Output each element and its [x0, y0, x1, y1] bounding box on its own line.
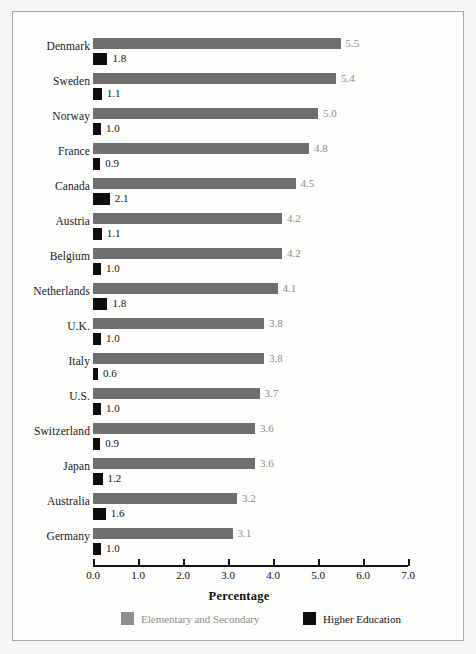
bar-elementary-and-secondary	[93, 143, 309, 154]
bar-value-elementary-and-secondary: 5.4	[341, 72, 355, 84]
x-axis-tick	[318, 559, 320, 566]
bar-value-higher-education: 0.9	[105, 157, 119, 169]
chart-row: U.K.3.81.0	[13, 316, 465, 351]
x-axis-tick	[408, 559, 410, 566]
bar-value-higher-education: 1.0	[106, 542, 120, 554]
bar-value-elementary-and-secondary: 4.1	[283, 282, 297, 294]
legend-label-higher-education: Higher Education	[323, 613, 401, 625]
bar-value-higher-education: 0.9	[105, 437, 119, 449]
bar-higher-education	[93, 438, 100, 450]
category-label: Germany	[0, 530, 90, 542]
bar-elementary-and-secondary	[93, 528, 233, 539]
category-label: Norway	[0, 110, 90, 122]
x-axis-tick-label: 6.0	[356, 569, 370, 581]
bar-elementary-and-secondary	[93, 213, 282, 224]
bar-value-higher-education: 1.8	[112, 52, 126, 64]
bar-higher-education	[93, 473, 103, 485]
bar-higher-education	[93, 53, 107, 65]
x-axis-tick-label: 4.0	[266, 569, 280, 581]
legend-swatch-black-icon	[303, 612, 316, 625]
x-axis-tick	[363, 559, 365, 566]
chart-row: Norway5.01.0	[13, 106, 465, 141]
chart-row: Italy3.80.6	[13, 351, 465, 386]
x-axis-title: Percentage	[13, 589, 465, 604]
bar-elementary-and-secondary	[93, 493, 237, 504]
x-axis-tick-label: 7.0	[401, 569, 415, 581]
bar-value-higher-education: 1.2	[108, 472, 122, 484]
chart-frame: Germany3.11.0Australia3.21.6Japan3.61.2S…	[12, 11, 464, 641]
bar-value-elementary-and-secondary: 3.8	[269, 317, 283, 329]
x-axis-tick	[273, 559, 275, 566]
bar-value-elementary-and-secondary: 5.5	[346, 37, 360, 49]
bar-higher-education	[93, 158, 100, 170]
legend-item-higher-education: Higher Education	[303, 612, 401, 625]
x-axis-tick-label: 3.0	[221, 569, 235, 581]
bar-elementary-and-secondary	[93, 38, 341, 49]
category-label: Netherlands	[0, 285, 90, 297]
bar-value-elementary-and-secondary: 4.8	[314, 142, 328, 154]
bar-value-elementary-and-secondary: 4.5	[301, 177, 315, 189]
bar-value-elementary-and-secondary: 3.6	[260, 457, 274, 469]
bar-value-elementary-and-secondary: 5.0	[323, 107, 337, 119]
category-label: Sweden	[0, 75, 90, 87]
bar-higher-education	[93, 333, 101, 345]
bar-elementary-and-secondary	[93, 318, 264, 329]
bar-elementary-and-secondary	[93, 353, 264, 364]
chart-row: Austria4.21.1	[13, 211, 465, 246]
bar-higher-education	[93, 263, 101, 275]
bar-higher-education	[93, 88, 102, 100]
category-label: Japan	[0, 460, 90, 472]
bar-higher-education	[93, 228, 102, 240]
bar-higher-education	[93, 508, 106, 520]
x-axis-line	[93, 565, 408, 567]
bar-value-higher-education: 0.6	[103, 367, 117, 379]
chart-row: Belgium4.21.0	[13, 246, 465, 281]
bar-value-elementary-and-secondary: 3.2	[242, 492, 256, 504]
bar-elementary-and-secondary	[93, 388, 260, 399]
bar-higher-education	[93, 368, 98, 380]
bar-value-elementary-and-secondary: 4.2	[287, 247, 301, 259]
x-axis-tick-label: 2.0	[176, 569, 190, 581]
category-label: Italy	[0, 355, 90, 367]
x-axis-tick	[93, 559, 95, 566]
chart-row: Japan3.61.2	[13, 456, 465, 491]
bar-elementary-and-secondary	[93, 458, 255, 469]
bar-elementary-and-secondary	[93, 108, 318, 119]
category-label: Switzerland	[0, 425, 90, 437]
bar-value-elementary-and-secondary: 3.8	[269, 352, 283, 364]
bar-elementary-and-secondary	[93, 283, 278, 294]
bar-higher-education	[93, 298, 107, 310]
category-label: France	[0, 145, 90, 157]
x-axis-tick	[228, 559, 230, 566]
chart-row: Germany3.11.0	[13, 526, 465, 561]
category-label: U.S.	[0, 390, 90, 402]
bar-elementary-and-secondary	[93, 73, 336, 84]
bar-chart-plot-area: Germany3.11.0Australia3.21.6Japan3.61.2S…	[13, 12, 465, 642]
bar-elementary-and-secondary	[93, 423, 255, 434]
bar-value-elementary-and-secondary: 4.2	[287, 212, 301, 224]
bar-value-elementary-and-secondary: 3.7	[265, 387, 279, 399]
x-axis-tick	[183, 559, 185, 566]
x-axis-tick-label: 1.0	[131, 569, 145, 581]
bar-value-higher-education: 1.6	[111, 507, 125, 519]
bar-higher-education	[93, 193, 110, 205]
bar-value-higher-education: 2.1	[115, 192, 129, 204]
x-axis-tick-label: 0.0	[86, 569, 100, 581]
bar-value-higher-education: 1.1	[107, 87, 121, 99]
bar-value-elementary-and-secondary: 3.6	[260, 422, 274, 434]
legend-swatch-gray-icon	[121, 612, 134, 625]
legend-item-elementary-and-secondary: Elementary and Secondary	[121, 612, 260, 625]
bar-value-higher-education: 1.1	[107, 227, 121, 239]
category-label: Austria	[0, 215, 90, 227]
bar-value-higher-education: 1.0	[106, 402, 120, 414]
chart-row: Australia3.21.6	[13, 491, 465, 526]
bar-elementary-and-secondary	[93, 178, 296, 189]
bar-value-higher-education: 1.8	[112, 297, 126, 309]
chart-row: Canada4.52.1	[13, 176, 465, 211]
bar-value-higher-education: 1.0	[106, 262, 120, 274]
chart-row: Sweden5.41.1	[13, 71, 465, 106]
chart-row: France4.80.9	[13, 141, 465, 176]
category-label: Canada	[0, 180, 90, 192]
category-label: Belgium	[0, 250, 90, 262]
chart-row: Switzerland3.60.9	[13, 421, 465, 456]
